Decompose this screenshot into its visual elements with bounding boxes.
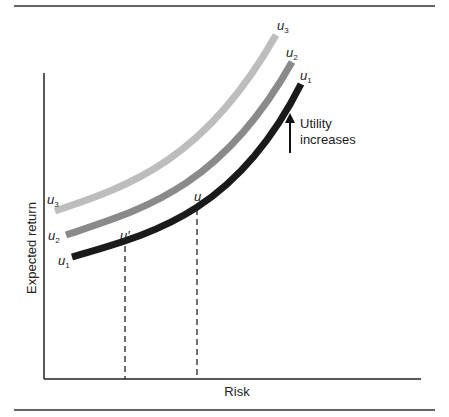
- label-u1-left: u1: [58, 253, 70, 270]
- label-u1-top: u1: [300, 68, 312, 85]
- label-u-prime: u′: [120, 228, 130, 243]
- annotation-increases: increases: [300, 132, 356, 147]
- annotation-utility: Utility: [300, 116, 332, 131]
- indifference-curve-diagram: u3 u2 u1 u3 u2 u1 u′ u Utility increases…: [0, 0, 449, 417]
- label-u2-top: u2: [286, 45, 298, 62]
- label-u3-top: u3: [277, 18, 289, 35]
- label-u2-left: u2: [48, 228, 60, 245]
- label-u3-left: u3: [47, 192, 59, 209]
- label-u: u: [194, 189, 201, 204]
- x-axis-label: Risk: [224, 384, 250, 399]
- up-arrow-icon: [285, 113, 295, 153]
- y-axis-label: Expected return: [24, 202, 39, 294]
- curve-u3: [55, 35, 276, 211]
- curve-u1: [72, 84, 301, 257]
